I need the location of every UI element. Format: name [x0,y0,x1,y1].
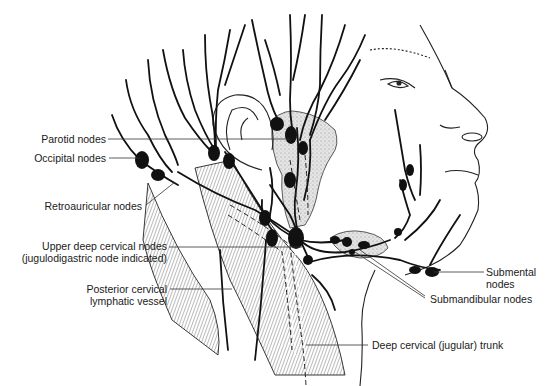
label-submental-line2: nodes [486,278,536,290]
label-parotid-nodes: Parotid nodes [30,133,106,145]
label-deep-cervical-trunk: Deep cervical (jugular) trunk [372,339,503,351]
parotid-node [284,172,296,188]
retroauricular-node [208,145,220,161]
submandibular-node [342,237,352,247]
occipital-node [151,169,165,181]
label-posterior-line2: lymphatic vessel [40,295,167,307]
lymph-node-diagram: Parotid nodes Occipital nodes Retroauric… [0,0,554,386]
submental-node [409,266,421,274]
label-submental-nodes: Submental nodes [486,266,536,290]
label-upper-deep-line1: Upper deep cervical nodes [10,240,167,252]
label-submental-line1: Submental [486,266,536,278]
label-retroauricular-nodes: Retroauricular nodes [30,200,142,212]
label-occipital-nodes: Occipital nodes [20,152,106,164]
facial-node [394,228,402,236]
ear [213,95,273,170]
label-upper-deep-line2: (jugulodigastric node indicated) [10,252,167,264]
label-submandibular-nodes: Submandibular nodes [430,293,532,305]
upper-deep-node [259,210,271,226]
label-upper-deep-cervical: Upper deep cervical nodes (jugulodigastr… [10,240,167,264]
parotid-node [285,126,297,144]
submandibular-node [349,249,355,255]
upper-deep-node [266,229,278,247]
face-profile [360,25,488,386]
head-neck-illustration [0,0,554,386]
parotid-node [298,141,308,155]
parotid-node [270,117,284,131]
submandibular-node [330,236,340,244]
facial-node [406,164,414,176]
jugulodigastric-node [288,227,304,249]
retroauricular-node [223,153,235,169]
label-posterior-line1: Posterior cervical [40,283,167,295]
label-posterior-cervical: Posterior cervical lymphatic vessel [40,283,167,307]
occipital-node [135,151,149,169]
facial-node [399,179,407,191]
upper-deep-node [303,255,313,265]
submandibular-node [358,241,370,249]
